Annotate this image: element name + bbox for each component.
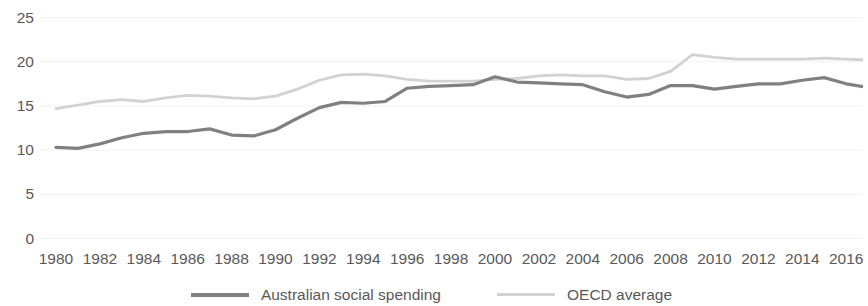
- y-axis-tick-label: 15: [0, 97, 34, 115]
- series-line: [56, 55, 863, 109]
- chart-legend: Australian social spending OECD average: [0, 283, 863, 306]
- series-lines: [56, 55, 863, 149]
- y-axis-tick-label: 10: [0, 141, 34, 159]
- y-axis-tick-label: 25: [0, 9, 34, 27]
- legend-label-series-b: OECD average: [567, 286, 672, 304]
- gridlines: [40, 18, 863, 239]
- legend-item-oecd-average[interactable]: OECD average: [497, 286, 672, 304]
- y-axis-tick-label: 20: [0, 53, 34, 71]
- series-line: [56, 77, 863, 149]
- legend-label-series-a: Australian social spending: [261, 286, 441, 304]
- legend-item-australian-social-spending[interactable]: Australian social spending: [191, 286, 441, 304]
- legend-line-icon-series-a: [191, 293, 249, 297]
- y-axis-tick-label: 5: [0, 185, 34, 203]
- y-axis-tick-label: 0: [0, 230, 34, 248]
- legend-line-icon-series-b: [497, 293, 555, 296]
- x-axis-tick-label: 2016: [816, 250, 868, 268]
